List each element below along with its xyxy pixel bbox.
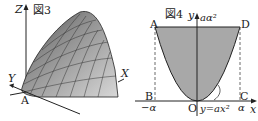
y-axis-arrow-icon bbox=[195, 13, 200, 19]
point-A-label: A bbox=[21, 95, 29, 106]
figure4-title: 図4 bbox=[165, 9, 183, 20]
paraboloid-surface bbox=[22, 11, 118, 97]
x-axis-label: x bbox=[250, 104, 256, 115]
alpha-label: α bbox=[238, 103, 245, 113]
point-A-label: A bbox=[150, 19, 158, 30]
point-B-label: B bbox=[145, 91, 153, 102]
neg-alpha-label: −α bbox=[141, 103, 156, 113]
point-D-label: D bbox=[241, 19, 250, 30]
y-axis-label: y bbox=[188, 10, 194, 21]
origin-label: O bbox=[188, 103, 197, 114]
y-axis-label: Y bbox=[8, 73, 15, 84]
z-axis-label: Z bbox=[15, 4, 23, 15]
x-axis-label: X bbox=[121, 68, 129, 79]
top-value-label: aα² bbox=[200, 13, 217, 23]
figure3-title: 図3 bbox=[33, 5, 51, 16]
z-axis-arrow-icon bbox=[24, 4, 29, 10]
point-C-label: C bbox=[240, 91, 248, 102]
curve-equation-label: y=ax² bbox=[200, 104, 230, 114]
